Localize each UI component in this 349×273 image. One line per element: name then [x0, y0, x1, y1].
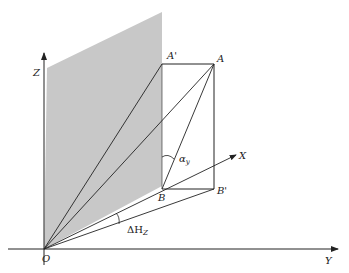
y-axis-label: Y [325, 255, 333, 266]
delta-hz-label: ΔHZ [127, 224, 148, 237]
point-b-label: B [157, 192, 165, 203]
point-a-label: A [216, 53, 224, 64]
segment-a-b [162, 64, 214, 189]
x-axis-label: X [238, 150, 247, 161]
alpha-y-label: αy [179, 153, 191, 166]
diagram-canvas: Z X Y O A' A B B' αy ΔHZ [0, 0, 349, 273]
origin-label: O [42, 253, 50, 264]
z-axis-label: Z [32, 67, 41, 78]
point-a-prime-label: A' [166, 50, 177, 61]
point-b-prime-label: B' [216, 185, 227, 196]
alpha-y-arc [162, 155, 174, 159]
